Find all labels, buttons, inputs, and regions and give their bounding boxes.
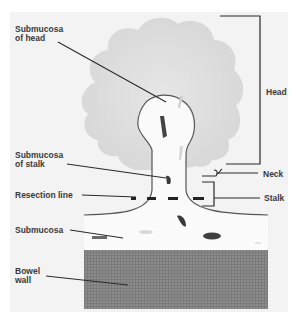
- submucosa-band-white: [84, 226, 268, 250]
- fleck: [92, 236, 107, 239]
- label-bowel-wall: Bowel wall: [15, 267, 40, 285]
- bowel-wall: [84, 250, 268, 309]
- fleck: [139, 230, 153, 234]
- label-submucosa-of-stalk: Submucosa of stalk: [15, 151, 63, 169]
- label-resection-line: Resection line: [15, 191, 73, 200]
- label-stalk: Stalk: [264, 194, 284, 203]
- label-neck: Neck: [263, 170, 283, 179]
- label-submucosa: Submucosa: [15, 226, 63, 235]
- label-head: Head: [266, 88, 287, 97]
- fleck: [255, 242, 261, 244]
- fleck: [203, 233, 221, 240]
- label-submucosa-of-head: Submucosa of head: [15, 25, 63, 43]
